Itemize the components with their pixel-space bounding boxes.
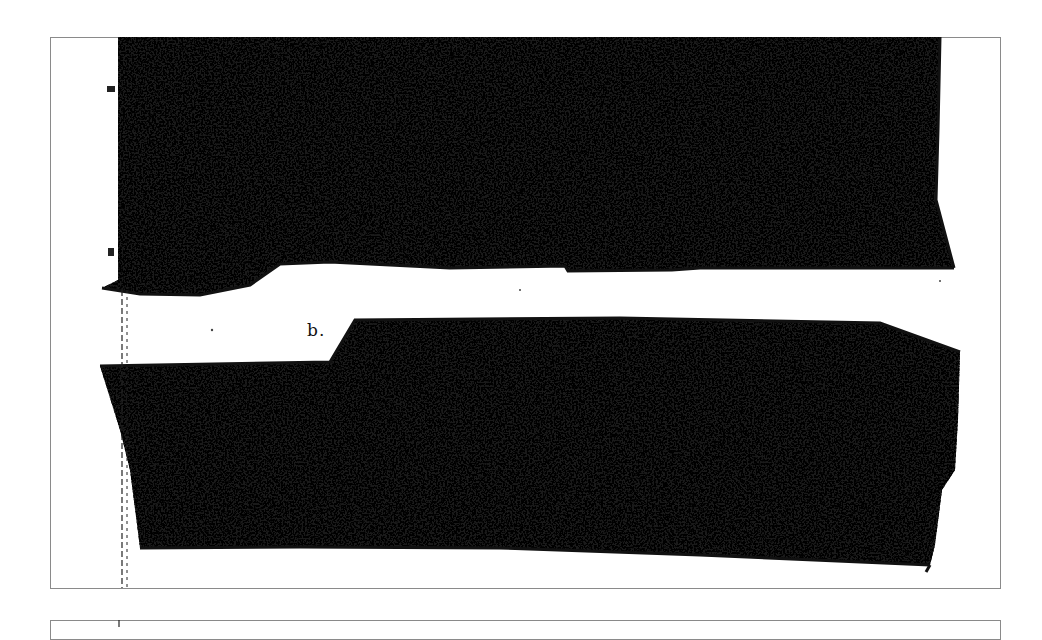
lower-stippled-mass bbox=[95, 315, 965, 572]
upper-stippled-mass bbox=[95, 37, 965, 297]
margin-rule-lines bbox=[119, 290, 127, 627]
panel-label: b. bbox=[307, 320, 325, 340]
